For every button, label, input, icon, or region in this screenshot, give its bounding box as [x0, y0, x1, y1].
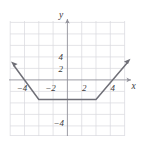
- curve-left-arrow-icon: [11, 62, 18, 67]
- xtick-label-neg2: −2: [45, 83, 56, 93]
- ytick-label-neg4: −4: [53, 118, 64, 128]
- x-axis-label: x: [131, 81, 137, 91]
- curve-right-arrow-icon: [124, 59, 131, 64]
- xtick-label-pos4: 4: [111, 83, 116, 93]
- y-axis: [65, 19, 70, 136]
- xtick-label-pos2: 2: [82, 83, 87, 93]
- coordinate-plane-svg: x y −4 −2 2 4 4 2 −4: [0, 0, 142, 151]
- xtick-label-neg4: −4: [17, 83, 28, 93]
- y-axis-label: y: [58, 10, 64, 20]
- ytick-label-pos4: 4: [59, 52, 64, 62]
- function-curve: [11, 59, 131, 100]
- ytick-label-pos2: 2: [59, 64, 64, 74]
- graph-figure: x y −4 −2 2 4 4 2 −4: [0, 0, 142, 151]
